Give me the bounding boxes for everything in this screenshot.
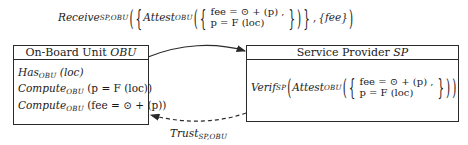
receive-message-label: ReceiveSP,OBU ({ AttestOBU ({ fee = ⊙ + … [58,6,354,28]
attest-function: Attest [143,11,175,23]
close-paren: ) [446,73,450,102]
verified-values: fee = ⊙ + (p) , p = F (loc) [359,76,433,98]
close-paren: ) [297,4,301,30]
fee-set: {fee} [318,11,348,23]
trust-arrow [151,113,246,121]
close-brace: } [303,4,310,30]
attested-values: fee = ⊙ + (p) , p = F (loc) [210,6,284,28]
verify-statement: VerifSP ( AttestOBU ({ fee = ⊙ + (p) , p… [251,76,457,98]
open-brace: { [349,73,356,102]
receive-function: Receive [58,11,100,23]
compute-p-statement: ComputeOBU (p = F (loc)) [18,82,148,98]
has-loc-statement: HasOBU (loc) [18,66,148,82]
close-paren: ) [349,4,353,30]
obu-box-title: On-Board Unit OBU [14,46,148,60]
open-paren: ( [343,73,347,102]
close-brace: } [288,4,295,30]
sp-box: Service Provider SP VerifSP ( AttestOBU … [246,45,459,122]
sp-box-title: Service Provider SP [247,46,458,60]
open-paren: ( [130,4,134,30]
compute-fee-statement: ComputeOBU (fee = ⊙ + (p)) [18,99,148,115]
close-brace: } [437,73,444,102]
close-paren: ) [452,73,456,102]
receive-arrow [148,45,245,57]
open-brace: { [136,4,143,30]
open-paren: ( [287,73,291,102]
open-brace: { [200,4,207,30]
fee-expression: fee = ⊙ + (p) , [210,6,284,17]
p-expression: p = F (loc) [210,17,284,28]
open-paren: ( [194,4,198,30]
receive-subscript: SP,OBU [100,13,129,22]
attest-subscript: OBU [175,13,193,22]
obu-box: On-Board Unit OBU HasOBU (loc) ComputeOB… [13,45,149,125]
trust-message-label: TrustSP,OBU [170,127,227,141]
